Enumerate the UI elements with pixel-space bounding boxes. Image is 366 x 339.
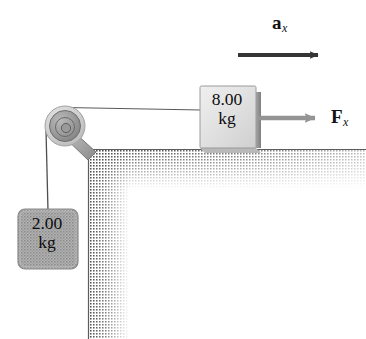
block-on-table-label: 8.00 kg xyxy=(200,90,254,128)
acceleration-subscript: x xyxy=(282,21,288,35)
block-bottom-face xyxy=(200,148,261,153)
block-on-table-mass-unit: kg xyxy=(200,109,254,128)
hanging-block-label: 2.00 kg xyxy=(18,214,76,252)
force-label: Fx xyxy=(331,106,348,130)
horizontal-string xyxy=(66,108,201,111)
block-on-table-mass-value: 8.00 xyxy=(200,90,254,109)
acceleration-symbol: a xyxy=(272,12,282,33)
diagram-canvas: ax Fx 8.00 kg 2.00 kg xyxy=(0,0,366,339)
diagram-svg xyxy=(0,0,366,339)
vertical-string xyxy=(46,130,48,211)
acceleration-label: ax xyxy=(272,12,287,36)
pulley xyxy=(45,106,85,146)
force-subscript: x xyxy=(343,115,349,129)
hanging-block-mass-value: 2.00 xyxy=(18,214,76,233)
hanging-block-mass-unit: kg xyxy=(18,233,76,252)
table-surface xyxy=(88,149,366,339)
pulley-hub xyxy=(61,123,70,132)
force-symbol: F xyxy=(331,106,343,127)
